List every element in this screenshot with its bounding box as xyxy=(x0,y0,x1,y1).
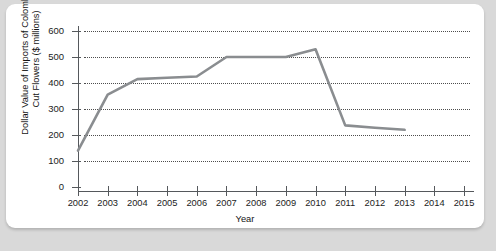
data-series-line xyxy=(6,4,484,228)
plot-area: Dollar Value of Imports of Colombian Cut… xyxy=(6,4,484,228)
x-axis-title: Year xyxy=(6,214,484,224)
chart-page: Dollar Value of Imports of Colombian Cut… xyxy=(0,0,496,251)
chart-card: Dollar Value of Imports of Colombian Cut… xyxy=(6,4,484,228)
